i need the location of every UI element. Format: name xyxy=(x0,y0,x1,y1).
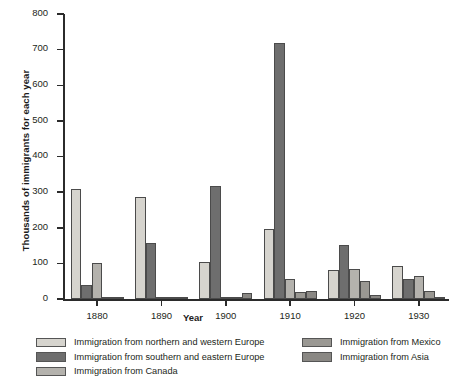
bar xyxy=(360,281,371,299)
bar xyxy=(339,245,350,299)
bar xyxy=(295,292,306,299)
y-axis-tick-label: 800 xyxy=(32,7,48,18)
immigration-bar-chart: Thousands of immigrants for each year 01… xyxy=(0,0,457,384)
x-axis-tick: 1910 xyxy=(289,299,291,306)
legend-item: Immigration from Mexico xyxy=(302,335,441,350)
bar xyxy=(221,297,232,299)
legend-label: Immigration from southern and eastern Eu… xyxy=(74,352,264,362)
x-axis-tick: 1930 xyxy=(418,299,420,306)
x-axis-line xyxy=(63,299,449,301)
bar xyxy=(392,266,403,299)
bar xyxy=(71,189,82,299)
y-axis-tick: 800 xyxy=(57,13,64,15)
y-axis-tick: 300 xyxy=(57,191,64,193)
bar xyxy=(135,197,146,299)
bar xyxy=(167,297,178,299)
legend-label: Immigration from Canada xyxy=(74,366,178,376)
legend-item: Immigration from Asia xyxy=(302,350,441,365)
x-axis-tick: 1900 xyxy=(225,299,227,306)
x-axis-tick: 1920 xyxy=(354,299,356,306)
bar xyxy=(370,295,381,299)
legend-column-right: Immigration from MexicoImmigration from … xyxy=(302,335,441,364)
plot-area: 0100200300400500600700800 18801890190019… xyxy=(63,14,449,299)
legend-swatch xyxy=(302,352,332,362)
bar xyxy=(285,279,296,299)
bar xyxy=(92,263,103,299)
x-axis-tick: 1890 xyxy=(161,299,163,306)
bar xyxy=(328,270,339,299)
bar xyxy=(242,293,253,299)
bar xyxy=(231,297,242,299)
legend-column-left: Immigration from northern and western Eu… xyxy=(36,335,264,379)
y-axis-tick-label: 500 xyxy=(32,114,48,125)
legend-item: Immigration from Canada xyxy=(36,364,264,379)
legend-swatch xyxy=(302,338,332,348)
y-axis-tick-label: 300 xyxy=(32,185,48,196)
legend-label: Immigration from Asia xyxy=(340,352,429,362)
y-axis-tick-label: 100 xyxy=(32,256,48,267)
y-axis-tick-label: 600 xyxy=(32,78,48,89)
bar xyxy=(210,186,221,299)
bar xyxy=(102,297,113,299)
y-axis-title: Thousands of immigrants for each year xyxy=(20,31,31,291)
legend-item: Immigration from northern and western Eu… xyxy=(36,335,264,350)
y-axis-tick-label: 400 xyxy=(32,149,48,160)
legend-label: Immigration from Mexico xyxy=(340,337,441,347)
x-axis-tick-label: 1930 xyxy=(408,310,429,321)
y-axis-tick: 200 xyxy=(57,227,64,229)
legend-item: Immigration from southern and eastern Eu… xyxy=(36,350,264,365)
y-axis-tick-label: 200 xyxy=(32,221,48,232)
y-axis-tick: 500 xyxy=(57,120,64,122)
bar xyxy=(306,291,317,299)
legend-swatch xyxy=(36,367,66,377)
y-axis-tick: 600 xyxy=(57,85,64,87)
bar xyxy=(424,291,435,299)
bar xyxy=(199,262,210,299)
x-axis-title: Year xyxy=(0,312,386,323)
bar xyxy=(81,285,92,299)
bar xyxy=(146,243,157,299)
y-axis-tick: 700 xyxy=(57,49,64,51)
bar xyxy=(113,297,124,299)
y-axis-tick-label: 0 xyxy=(43,292,48,303)
bar xyxy=(274,43,285,300)
bar xyxy=(435,297,446,299)
bar xyxy=(177,297,188,299)
y-axis-tick: 100 xyxy=(57,263,64,265)
bar xyxy=(349,269,360,299)
y-axis-tick: 400 xyxy=(57,156,64,158)
bar xyxy=(414,276,425,299)
bar xyxy=(156,297,167,299)
y-axis-tick-label: 700 xyxy=(32,42,48,53)
legend-swatch xyxy=(36,338,66,348)
legend-label: Immigration from northern and western Eu… xyxy=(74,337,264,347)
y-axis-tick: 0 xyxy=(57,298,64,300)
bar xyxy=(403,279,414,299)
bar xyxy=(264,229,275,299)
legend-swatch xyxy=(36,352,66,362)
x-axis-tick: 1880 xyxy=(96,299,98,306)
legend: Immigration from northern and western Eu… xyxy=(36,335,451,381)
